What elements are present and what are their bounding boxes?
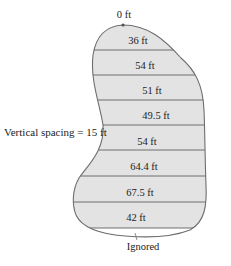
width-label: 49.5 ft (142, 110, 169, 121)
width-label: 54 ft (135, 60, 155, 71)
width-label: 64.4 ft (130, 161, 157, 172)
width-label: 51 ft (142, 85, 162, 96)
vertical-spacing-label: Vertical spacing = 15 ft (4, 126, 107, 138)
width-label: 36 ft (128, 35, 148, 46)
ignored-label: Ignored (127, 241, 160, 252)
width-label: 67.5 ft (126, 187, 153, 198)
width-label: 54 ft (137, 136, 157, 147)
top-label: 0 ft (117, 9, 131, 20)
top-point (121, 23, 124, 26)
width-label: 42 ft (126, 212, 146, 223)
